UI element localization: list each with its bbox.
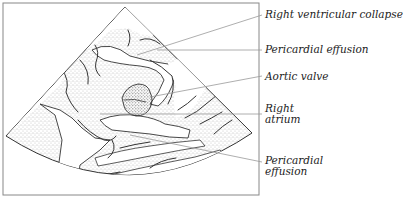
label-pericardial-effusion-bottom: Pericardial effusion xyxy=(265,155,323,177)
label-aortic-valve: Aortic valve xyxy=(265,71,328,82)
label-right-ventricular-collapse: Right ventricular collapse xyxy=(265,9,403,20)
label-text: Pericardial effusion xyxy=(265,43,369,55)
label-right-atrium: Right atrium xyxy=(265,103,301,125)
label-text-line-2: effusion xyxy=(265,166,323,177)
label-text: Right ventricular collapse xyxy=(265,8,403,20)
label-pericardial-effusion-top: Pericardial effusion xyxy=(265,44,369,55)
label-text: Aortic valve xyxy=(265,70,328,82)
label-text-line-2: atrium xyxy=(265,114,301,125)
